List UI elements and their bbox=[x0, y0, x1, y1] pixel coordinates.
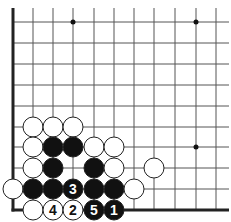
white-stone-icon bbox=[23, 117, 43, 137]
white-stone-icon bbox=[63, 117, 83, 137]
white-stone-icon bbox=[84, 137, 104, 157]
white-stone-move-4: 4 bbox=[43, 200, 63, 220]
black-stone-icon bbox=[43, 179, 63, 199]
white-stone bbox=[144, 158, 164, 178]
white-stone bbox=[124, 179, 144, 199]
white-stone-icon bbox=[3, 179, 23, 199]
move-number-label: 3 bbox=[69, 181, 77, 197]
black-stone-move-5: 5 bbox=[84, 200, 104, 220]
black-stone bbox=[63, 137, 83, 157]
white-stone bbox=[23, 137, 43, 157]
black-stone-icon bbox=[43, 137, 63, 157]
white-stone-icon bbox=[124, 179, 144, 199]
black-stone bbox=[43, 137, 63, 157]
white-stone-icon bbox=[104, 158, 124, 178]
white-stone-icon bbox=[23, 137, 43, 157]
grid-lines bbox=[13, 8, 229, 210]
black-stone bbox=[84, 158, 104, 178]
hoshi-point-icon bbox=[71, 20, 76, 25]
white-stone bbox=[104, 137, 124, 157]
black-stone bbox=[43, 158, 63, 178]
black-stone-move-1: 1 bbox=[104, 200, 124, 220]
white-stone-move-2: 2 bbox=[63, 200, 83, 220]
black-stone-icon bbox=[63, 137, 83, 157]
white-stone bbox=[3, 179, 23, 199]
white-stone-icon bbox=[104, 137, 124, 157]
move-number-label: 4 bbox=[49, 202, 57, 218]
black-stone-icon bbox=[104, 179, 124, 199]
hoshi-point-icon bbox=[194, 145, 199, 150]
white-stone-icon bbox=[43, 117, 63, 137]
white-stone-icon bbox=[144, 158, 164, 178]
black-stone bbox=[43, 179, 63, 199]
go-board: 34251 bbox=[0, 0, 231, 222]
black-stone-icon bbox=[43, 158, 63, 178]
black-stone bbox=[84, 179, 104, 199]
white-stone bbox=[23, 200, 43, 220]
black-stone-icon bbox=[84, 179, 104, 199]
black-stone-icon bbox=[84, 158, 104, 178]
white-stone bbox=[104, 158, 124, 178]
white-stone bbox=[43, 117, 63, 137]
move-number-label: 1 bbox=[110, 202, 118, 218]
white-stone bbox=[23, 158, 43, 178]
black-stone bbox=[104, 179, 124, 199]
white-stone bbox=[84, 137, 104, 157]
move-number-label: 2 bbox=[69, 202, 77, 218]
hoshi-point-icon bbox=[194, 20, 199, 25]
move-number-label: 5 bbox=[90, 202, 98, 218]
black-stone-move-3: 3 bbox=[63, 179, 83, 199]
white-stone bbox=[23, 117, 43, 137]
black-stone bbox=[23, 179, 43, 199]
white-stone bbox=[63, 117, 83, 137]
white-stone-icon bbox=[23, 158, 43, 178]
black-stone-icon bbox=[23, 179, 43, 199]
white-stone-icon bbox=[23, 200, 43, 220]
